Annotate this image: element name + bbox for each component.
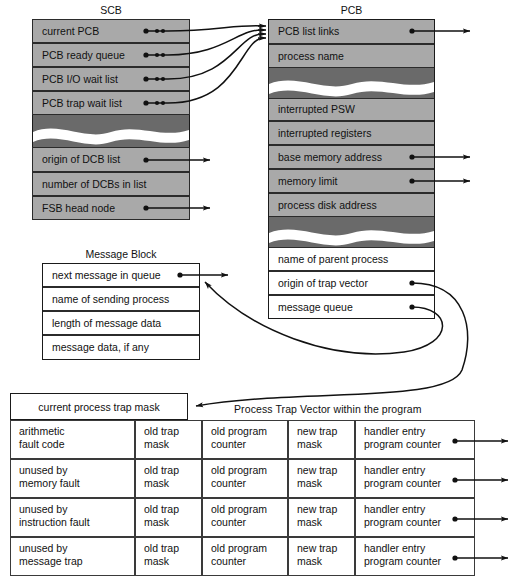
current-process-trap-mask-box: current process trap mask xyxy=(10,393,188,420)
message-block-outline xyxy=(42,263,200,360)
trap-row-new-mask: new trap mask xyxy=(288,459,355,498)
scb-row-label: number of DCBs in list xyxy=(33,178,146,190)
scb-row-io-wait-list: PCB I/O wait list xyxy=(32,67,190,91)
trap-cell-line: old program xyxy=(211,425,287,438)
trap-cell-line: mask xyxy=(144,555,201,568)
trap-cell-line: arithmetic xyxy=(19,425,134,438)
trap-cell-line: new trap xyxy=(297,542,354,555)
scb-row-label: PCB trap wait list xyxy=(33,97,122,109)
trap-cell-line: memory fault xyxy=(19,477,134,490)
scb-row-fsb-head-node: FSB head node xyxy=(32,196,190,220)
trap-row-old-pc: old program counter xyxy=(202,498,288,537)
process-trap-vector-title: Process Trap Vector within the program xyxy=(234,403,422,415)
trap-row-old-mask: old trap mask xyxy=(135,537,202,576)
trap-cell-line: handler entry xyxy=(364,542,474,555)
trap-row-old-pc: old program counter xyxy=(202,537,288,576)
trap-row-cause: unused by message trap xyxy=(10,537,135,576)
current-process-trap-mask-label: current process trap mask xyxy=(38,401,159,413)
trap-cell-line: fault code xyxy=(19,438,134,451)
trap-cell-line: old trap xyxy=(144,542,201,555)
trap-row-old-mask: old trap mask xyxy=(135,498,202,537)
trap-cell-line: instruction fault xyxy=(19,516,134,529)
trap-cell-line: handler entry xyxy=(364,503,474,516)
scb-row-ready-queue: PCB ready queue xyxy=(32,43,190,67)
trap-cell-line: counter xyxy=(211,555,287,568)
trap-cell-line: old trap xyxy=(144,464,201,477)
trap-cell-line: mask xyxy=(297,477,354,490)
scb-row-label: origin of DCB list xyxy=(33,153,120,165)
trap-cell-line: mask xyxy=(297,438,354,451)
trap-row-new-mask: new trap mask xyxy=(288,420,355,459)
scb-row-label: FSB head node xyxy=(33,202,115,214)
trap-cell-line: new trap xyxy=(297,425,354,438)
diagram-canvas: SCB current PCB PCB ready queue PCB I/O … xyxy=(0,0,516,578)
trap-cell-line: counter xyxy=(211,477,287,490)
trap-cell-line: unused by xyxy=(19,542,134,555)
trap-row-handler: handler entry program counter xyxy=(355,498,475,537)
scb-row-origin-dcb-list: origin of DCB list xyxy=(32,147,190,172)
trap-row-handler: handler entry program counter xyxy=(355,537,475,576)
trap-cell-line: program counter xyxy=(364,477,474,490)
trap-cell-line: counter xyxy=(211,516,287,529)
trap-row-handler: handler entry program counter xyxy=(355,459,475,498)
trap-cell-line: mask xyxy=(144,516,201,529)
trap-cell-line: old program xyxy=(211,542,287,555)
trap-cell-line: old trap xyxy=(144,503,201,516)
trap-cell-line: old program xyxy=(211,464,287,477)
trap-row-cause: arithmetic fault code xyxy=(10,420,135,459)
pcb-block-outline xyxy=(268,19,435,319)
trap-cell-line: old trap xyxy=(144,425,201,438)
trap-cell-line: new trap xyxy=(297,464,354,477)
scb-title: SCB xyxy=(32,4,190,16)
scb-break-wave xyxy=(33,115,189,147)
trap-cell-line: counter xyxy=(211,438,287,451)
trap-cell-line: message trap xyxy=(19,555,134,568)
trap-row-cause: unused by instruction fault xyxy=(10,498,135,537)
trap-cell-line: mask xyxy=(297,555,354,568)
trap-row-old-mask: old trap mask xyxy=(135,420,202,459)
trap-row-handler: handler entry program counter xyxy=(355,420,475,459)
trap-cell-line: handler entry xyxy=(364,464,474,477)
trap-cell-line: program counter xyxy=(364,555,474,568)
trap-cell-line: program counter xyxy=(364,438,474,451)
trap-cell-line: new trap xyxy=(297,503,354,516)
trap-cell-line: program counter xyxy=(364,516,474,529)
scb-row-label: PCB I/O wait list xyxy=(33,73,118,85)
scb-row-number-of-dcbs: number of DCBs in list xyxy=(32,172,190,196)
trap-row-old-mask: old trap mask xyxy=(135,459,202,498)
trap-row-cause: unused by memory fault xyxy=(10,459,135,498)
trap-cell-line: handler entry xyxy=(364,425,474,438)
trap-cell-line: mask xyxy=(144,477,201,490)
trap-row-old-pc: old program counter xyxy=(202,459,288,498)
trap-cell-line: unused by xyxy=(19,503,134,516)
trap-cell-line: old program xyxy=(211,503,287,516)
message-block-title: Message Block xyxy=(42,248,200,260)
trap-row-new-mask: new trap mask xyxy=(288,537,355,576)
pcb-title: PCB xyxy=(268,4,435,16)
scb-row-label: PCB ready queue xyxy=(33,49,125,61)
scb-row-label: current PCB xyxy=(33,25,99,37)
trap-row-old-pc: old program counter xyxy=(202,420,288,459)
trap-cell-line: unused by xyxy=(19,464,134,477)
trap-row-new-mask: new trap mask xyxy=(288,498,355,537)
trap-cell-line: mask xyxy=(144,438,201,451)
trap-cell-line: mask xyxy=(297,516,354,529)
scb-row-current-pcb: current PCB xyxy=(32,19,190,43)
scb-row-trap-wait-list: PCB trap wait list xyxy=(32,91,190,115)
